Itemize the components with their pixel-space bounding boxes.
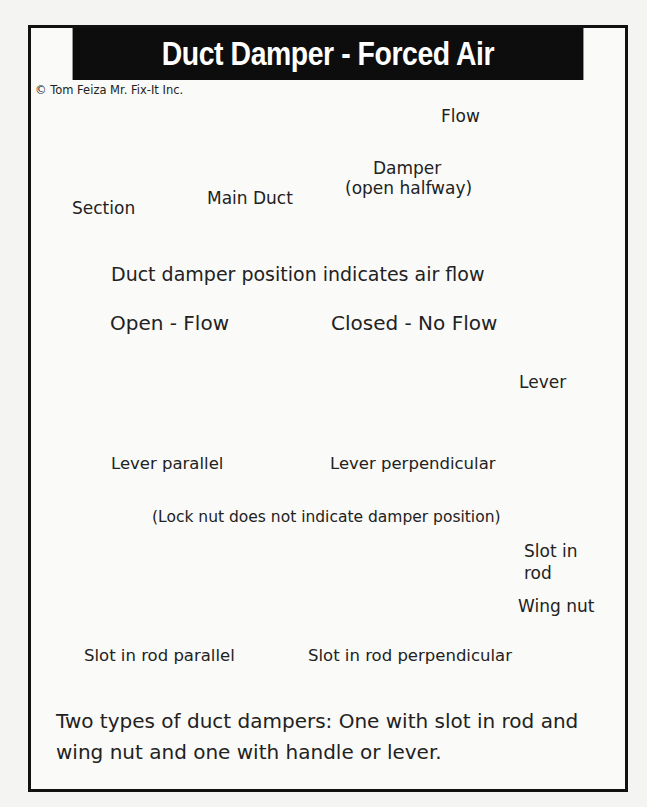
lever-label: Lever — [519, 372, 566, 392]
main-duct-label: Main Duct — [207, 188, 293, 208]
lever-parallel-caption: Lever parallel — [111, 454, 223, 473]
flow-label: Flow — [441, 106, 480, 126]
closed-no-flow-heading: Closed - No Flow — [331, 311, 497, 335]
slot-in-rod-label-line1: Slot in — [524, 541, 577, 561]
copyright-notice: © Tom Feiza Mr. Fix-It Inc. — [35, 83, 183, 97]
damper-sublabel: (open halfway) — [345, 178, 472, 198]
damper-label: Damper — [373, 158, 441, 178]
slot-perpendicular-caption: Slot in rod perpendicular — [308, 646, 512, 665]
lock-nut-note: (Lock nut does not indicate damper posit… — [152, 508, 501, 526]
section-label: Section — [72, 198, 135, 218]
poster-frame: Duct Damper - Forced Air © Tom Feiza Mr.… — [28, 25, 628, 792]
page-title: Duct Damper - Forced Air — [73, 28, 584, 80]
slot-in-rod-label-line2: rod — [524, 563, 552, 583]
footer-description: Two types of duct dampers: One with slot… — [56, 706, 616, 768]
wing-nut-label: Wing nut — [518, 596, 594, 616]
slot-parallel-caption: Slot in rod parallel — [84, 646, 235, 665]
diagram-subtitle: Duct damper position indicates air flow — [111, 263, 484, 285]
open-flow-heading: Open - Flow — [110, 311, 229, 335]
lever-perpendicular-caption: Lever perpendicular — [330, 454, 496, 473]
